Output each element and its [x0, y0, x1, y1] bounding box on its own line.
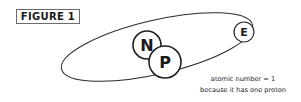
electron-circle: E — [234, 22, 254, 42]
electron-letter: E — [240, 26, 248, 39]
caption-line-1: atomic number = 1 — [185, 74, 301, 85]
caption-line-2: because it has one proton — [185, 85, 301, 96]
proton-letter: P — [159, 53, 171, 72]
proton-circle: P — [149, 46, 181, 78]
